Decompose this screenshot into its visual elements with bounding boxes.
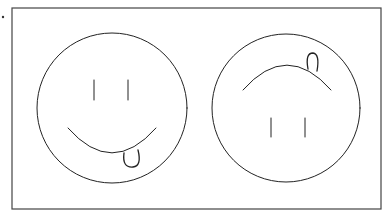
tongue-icon [307, 53, 318, 71]
mouth-arc [68, 128, 156, 153]
face-outline [212, 34, 360, 182]
bullet-dot [2, 16, 4, 18]
smiley-diagram [0, 0, 384, 216]
faces-group [37, 33, 360, 183]
inverted-smiley [212, 34, 360, 182]
figure-frame [12, 8, 381, 209]
upright-smiley [37, 33, 187, 183]
face-outline [37, 33, 187, 183]
tongue-icon [124, 150, 140, 167]
